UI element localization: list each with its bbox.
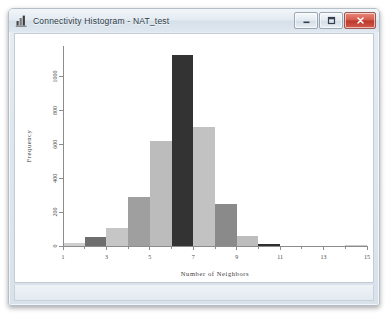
x-axis-tick-label: 3 <box>105 254 108 260</box>
window-controls <box>294 12 376 29</box>
chart-app-icon <box>15 14 28 27</box>
title-bar[interactable]: Connectivity Histogram - NAT_test <box>9 9 379 32</box>
window-title: Connectivity Histogram - NAT_test <box>33 16 169 26</box>
histogram-bar <box>106 228 128 246</box>
x-axis-tick-label: 1 <box>62 254 65 260</box>
histogram-svg: 1357911131502004006008001000Number of Ne… <box>15 34 375 285</box>
x-axis-tick-label: 15 <box>364 254 370 260</box>
histogram-bar <box>193 127 215 246</box>
y-axis-tick-label: 200 <box>52 208 58 217</box>
x-axis-tick-label: 5 <box>148 254 151 260</box>
close-button[interactable] <box>344 12 376 29</box>
y-axis-title: Frequency <box>25 129 32 162</box>
histogram-bar <box>150 141 172 246</box>
desktop-background: Connectivity Histogram - NAT_test <box>0 0 388 320</box>
maximize-button[interactable] <box>319 12 343 29</box>
histogram-bar <box>215 204 237 246</box>
x-axis-title: Number of Neighbors <box>181 270 249 277</box>
histogram-bar <box>128 197 150 246</box>
histogram-bar <box>237 236 259 246</box>
y-axis-tick-label: 600 <box>52 140 58 149</box>
y-axis-tick-label: 1000 <box>52 71 58 83</box>
y-axis-tick-label: 800 <box>52 106 58 115</box>
histogram-bar <box>85 237 107 246</box>
y-axis-tick-label: 0 <box>52 245 58 248</box>
minimize-button[interactable] <box>294 12 318 29</box>
histogram-plot: 1357911131502004006008001000Number of Ne… <box>15 34 373 282</box>
x-axis-tick-label: 9 <box>235 254 238 260</box>
x-axis-tick-label: 13 <box>321 254 327 260</box>
x-axis-tick-label: 7 <box>192 254 195 260</box>
histogram-bar <box>172 55 194 246</box>
application-window: Connectivity Histogram - NAT_test <box>8 8 380 306</box>
y-axis-tick-label: 400 <box>52 174 58 183</box>
status-bar <box>14 285 374 301</box>
x-axis-tick-label: 11 <box>277 254 283 260</box>
plot-client-area: 1357911131502004006008001000Number of Ne… <box>14 33 374 283</box>
